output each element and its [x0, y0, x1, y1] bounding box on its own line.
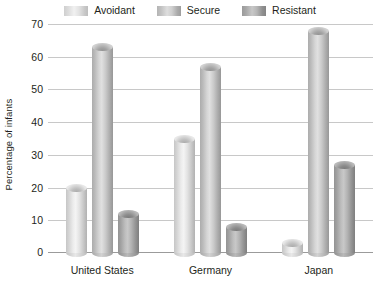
- bar-germany-avoidant: [174, 135, 195, 254]
- bar-top-ellipse: [92, 43, 113, 51]
- legend-item-avoidant: Avoidant: [64, 5, 135, 16]
- bar-top-ellipse: [66, 184, 87, 192]
- bar-body: [200, 67, 221, 253]
- bar-germany-secure: [200, 63, 221, 253]
- bar-chart: Avoidant Secure Resistant Percentage of …: [0, 0, 380, 288]
- plot-area: 010203040506070 United StatesGermanyJapa…: [48, 24, 373, 253]
- bar-united-states-secure: [92, 43, 113, 253]
- bar-body: [334, 165, 355, 253]
- y-axis-tick-30: 30: [31, 149, 43, 160]
- bar-top-ellipse: [174, 135, 195, 143]
- chart-legend: Avoidant Secure Resistant: [0, 2, 380, 19]
- y-axis-tick-10: 10: [31, 215, 43, 226]
- bar-japan-resistant: [334, 161, 355, 253]
- bar-body: [308, 31, 329, 253]
- y-axis-title: Percentage of infants: [2, 0, 16, 288]
- x-axis-label-japan: Japan: [265, 253, 373, 276]
- x-axis-label-united-states: United States: [48, 253, 156, 276]
- legend-item-resistant: Resistant: [242, 5, 316, 16]
- bar-united-states-resistant: [118, 210, 139, 253]
- y-axis-tick-20: 20: [31, 182, 43, 193]
- bar-body: [66, 188, 87, 253]
- bar-top-ellipse: [308, 27, 329, 35]
- bar-group-united-states: United States: [48, 24, 156, 253]
- bar-united-states-avoidant: [66, 184, 87, 253]
- legend-swatch-secure-icon: [157, 6, 181, 16]
- bar-body: [118, 214, 139, 253]
- bar-japan-avoidant: [282, 239, 303, 253]
- legend-label-secure: Secure: [187, 5, 220, 16]
- legend-swatch-resistant-icon: [242, 6, 266, 16]
- bar-body: [174, 139, 195, 254]
- bar-group-japan: Japan: [265, 24, 373, 253]
- y-axis-tick-50: 50: [31, 84, 43, 95]
- bar-body: [92, 47, 113, 253]
- bar-germany-resistant: [226, 223, 247, 253]
- legend-label-resistant: Resistant: [272, 5, 316, 16]
- bar-top-ellipse: [334, 161, 355, 169]
- bar-japan-secure: [308, 27, 329, 253]
- y-axis-tick-60: 60: [31, 51, 43, 62]
- bar-top-ellipse: [118, 210, 139, 218]
- y-axis-title-text: Percentage of infants: [4, 98, 15, 190]
- bar-group-germany: Germany: [156, 24, 264, 253]
- y-axis-tick-70: 70: [31, 19, 43, 30]
- x-axis-label-germany: Germany: [156, 253, 264, 276]
- bar-top-ellipse: [200, 63, 221, 71]
- legend-item-secure: Secure: [157, 5, 220, 16]
- y-axis-tick-0: 0: [37, 247, 43, 258]
- y-axis-tick-40: 40: [31, 117, 43, 128]
- bar-top-ellipse: [226, 223, 247, 231]
- legend-label-avoidant: Avoidant: [94, 5, 135, 16]
- legend-swatch-avoidant-icon: [64, 6, 88, 16]
